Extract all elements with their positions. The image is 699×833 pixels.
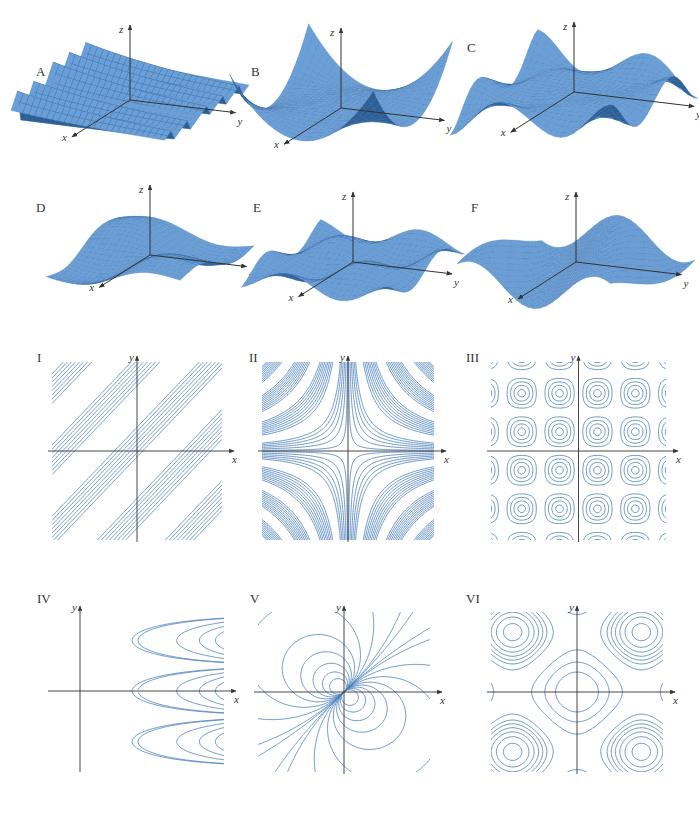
svg-text:x: x [500,126,506,138]
contour-panel-iv: IV xy [0,560,233,770]
contour-plot-i: xy [0,340,233,540]
surface-panel-b: B zxy [233,0,466,170]
contour-plot-vi: xy [466,560,699,770]
surface-panel-a: A zxy [0,0,233,170]
svg-text:y: y [128,351,134,363]
surface-panel-d: D zxy [0,170,233,340]
svg-text:x: x [507,293,513,305]
svg-text:x: x [288,291,294,303]
surface-plot-b: zxy [233,0,466,170]
surface-plot-e: zxy [233,170,466,340]
contour-plot-v: xy [233,560,466,770]
svg-text:y: y [335,601,341,613]
contour-plot-iv: xy [0,560,233,770]
surface-plot-d: zxy [0,170,233,340]
svg-text:z: z [138,183,144,195]
contour-panel-v: V xy [233,560,466,770]
svg-text:y: y [570,351,576,363]
svg-text:z: z [341,190,347,202]
contour-panel-iii: III xy [466,340,699,540]
svg-text:y: y [568,601,574,613]
svg-text:x: x [443,453,449,465]
surface-plot-a: zxy [0,0,233,170]
svg-text:x: x [273,138,279,150]
svg-text:y: y [71,601,77,613]
svg-text:y: y [446,122,452,134]
surface-panel-c: C zxy [466,0,699,170]
svg-text:x: x [672,694,678,706]
surface-panel-f: F zxy [466,170,699,340]
surface-plot-f: zxy [466,170,699,340]
contour-panel-i: I xy [0,340,233,540]
svg-text:x: x [88,281,94,293]
svg-text:y: y [683,277,689,289]
surface-panel-e: E zxy [233,170,466,340]
contour-plot-ii: xy [233,340,466,540]
svg-text:x: x [675,453,681,465]
svg-text:y: y [339,351,345,363]
svg-text:z: z [564,190,570,202]
svg-text:x: x [439,694,445,706]
svg-text:y: y [453,276,459,288]
svg-text:z: z [118,23,124,35]
contour-panel-ii: II xy [233,340,466,540]
contour-panel-vi: VI xy [466,560,699,770]
svg-text:x: x [61,131,67,143]
svg-text:z: z [329,26,335,38]
svg-text:y: y [695,108,699,120]
surface-plot-c: zxy [466,0,699,170]
contour-plot-iii: xy [466,340,699,540]
svg-text:z: z [562,20,568,32]
